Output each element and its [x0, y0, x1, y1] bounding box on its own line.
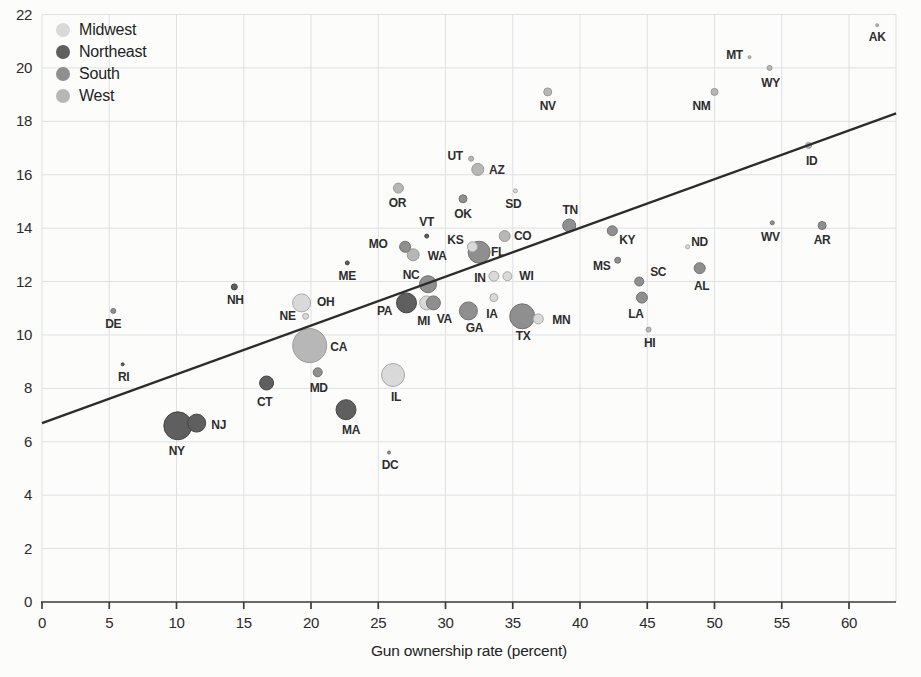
state-label-mn: MN: [552, 313, 570, 327]
midwest-swatch-icon: [56, 23, 70, 37]
x-axis-title: Gun ownership rate (percent): [42, 642, 896, 660]
state-label-ga: GA: [466, 321, 484, 335]
state-label-oh: OH: [317, 295, 334, 309]
state-bubble-mo: [400, 241, 411, 252]
state-label-dc: DC: [382, 458, 399, 472]
x-tick-label: 45: [639, 614, 655, 631]
west-swatch-icon: [56, 89, 70, 103]
x-tick-label: 30: [437, 614, 453, 631]
y-tick-label: 4: [24, 486, 32, 503]
state-bubble-nh: [231, 284, 237, 290]
x-tick-label: 10: [168, 614, 184, 631]
state-label-nm: NM: [692, 99, 710, 113]
state-bubble-sd: [513, 189, 517, 193]
state-bubble-az: [472, 163, 484, 175]
state-bubble-ky: [607, 226, 617, 236]
legend-label-south: South: [79, 66, 120, 82]
state-label-md: MD: [310, 381, 329, 395]
y-tick-label: 18: [16, 112, 32, 129]
state-bubble-tx: [510, 304, 535, 329]
state-label-ia: IA: [486, 307, 498, 321]
state-bubble-nj: [188, 414, 206, 432]
x-tick-label: 55: [774, 614, 790, 631]
x-tick-label: 25: [370, 614, 386, 631]
state-label-ny: NY: [169, 444, 185, 458]
y-tick-label: 0: [24, 593, 32, 610]
state-label-ut: UT: [447, 149, 463, 163]
state-label-ks: KS: [447, 233, 463, 247]
state-bubble-al: [694, 263, 705, 274]
state-label-ak: AK: [869, 30, 886, 44]
state-label-tn: TN: [562, 203, 577, 217]
state-bubble-hi: [646, 327, 651, 332]
state-bubble-dc: [388, 451, 391, 454]
state-bubble-md: [313, 368, 322, 377]
state-bubble-ca: [293, 329, 327, 363]
state-label-ca: CA: [330, 340, 347, 354]
state-bubble-nm: [711, 88, 718, 95]
state-label-wi: WI: [519, 269, 533, 283]
legend-item-south: South: [56, 63, 147, 84]
state-label-ma: MA: [342, 423, 361, 437]
state-bubble-mn: [533, 314, 543, 324]
x-tick-label: 5: [105, 614, 113, 631]
state-label-me: ME: [339, 269, 357, 283]
x-tick-label: 15: [236, 614, 252, 631]
state-bubble-il: [382, 364, 405, 387]
state-bubble-ri: [121, 363, 124, 366]
state-bubble-co: [499, 231, 510, 242]
state-label-ar: AR: [814, 233, 831, 247]
state-label-sc: SC: [650, 265, 667, 279]
region-legend: Midwest Northeast South West: [56, 19, 147, 106]
state-label-in: IN: [474, 271, 485, 285]
state-label-wy: WY: [761, 76, 780, 90]
state-label-ri: RI: [118, 370, 129, 384]
legend-label-west: West: [79, 88, 114, 104]
state-bubble-ar: [818, 222, 826, 230]
x-tick-label: 60: [841, 614, 857, 631]
state-bubble-vt: [425, 234, 429, 238]
y-tick-label: 20: [16, 59, 32, 76]
state-bubble-ks: [467, 242, 477, 252]
y-tick-label: 6: [24, 433, 32, 450]
state-bubble-ma: [336, 400, 356, 420]
northeast-swatch-icon: [56, 45, 70, 59]
state-label-mo: MO: [369, 237, 388, 251]
state-label-or: OR: [389, 196, 407, 210]
state-label-va: VA: [437, 312, 453, 326]
legend-item-northeast: Northeast: [56, 41, 147, 62]
legend-item-midwest: Midwest: [56, 19, 147, 40]
legend-label-midwest: Midwest: [79, 22, 136, 38]
state-bubble-ak: [876, 24, 879, 27]
y-tick-label: 12: [16, 273, 32, 290]
state-bubble-mt: [748, 56, 751, 59]
state-label-il: IL: [391, 390, 401, 404]
legend-label-northeast: Northeast: [79, 44, 147, 60]
state-bubble-ok: [459, 195, 467, 203]
y-tick-label: 14: [16, 219, 32, 236]
state-label-wa: WA: [428, 249, 447, 263]
gun-ownership-scatter-figure: 0510152025303540455055600246810121416182…: [0, 0, 921, 677]
south-swatch-icon: [56, 67, 70, 81]
x-tick-label: 40: [572, 614, 588, 631]
state-label-co: CO: [514, 229, 531, 243]
state-bubble-ia: [490, 294, 498, 302]
state-bubble-or: [393, 183, 403, 193]
state-label-vt: VT: [419, 215, 435, 229]
state-label-nv: NV: [540, 99, 556, 113]
state-label-la: LA: [628, 307, 644, 321]
x-tick-label: 35: [505, 614, 521, 631]
state-bubble-ct: [260, 376, 274, 390]
state-bubble-ne: [303, 313, 309, 319]
state-bubble-wv: [770, 221, 774, 225]
state-label-hi: HI: [644, 336, 655, 350]
state-label-ok: OK: [454, 207, 472, 221]
state-bubble-la: [636, 292, 647, 303]
state-label-ne: NE: [280, 309, 296, 323]
state-bubble-in: [489, 271, 499, 281]
state-label-nd: ND: [691, 235, 708, 249]
state-label-tx: TX: [516, 329, 531, 343]
state-label-nc: NC: [403, 268, 420, 282]
state-bubble-de: [111, 308, 116, 313]
y-tick-label: 16: [16, 166, 32, 183]
